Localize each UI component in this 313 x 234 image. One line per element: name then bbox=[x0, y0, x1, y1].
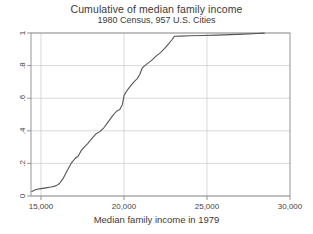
x-axis-label: Median family income in 1979 bbox=[0, 214, 313, 225]
y-tick-label: .2 bbox=[18, 160, 27, 167]
chart-figure: Cumulative of median family income 1980 … bbox=[0, 0, 313, 234]
y-tick-label: .6 bbox=[18, 94, 27, 101]
x-tick-label: 20,000 bbox=[112, 202, 137, 211]
data-series bbox=[32, 33, 264, 191]
y-tick-label: .8 bbox=[18, 62, 27, 69]
x-tick-label: 15,000 bbox=[29, 202, 54, 211]
x-tick-label: 25,000 bbox=[195, 202, 220, 211]
x-axis-ticks: 15,00020,00025,00030,000 bbox=[29, 196, 303, 211]
plot-border bbox=[31, 33, 290, 196]
plot-area: 0.2.4.6.81 15,00020,00025,00030,000 bbox=[0, 0, 313, 234]
x-tick-label: 30,000 bbox=[278, 202, 303, 211]
series-line bbox=[32, 33, 264, 191]
y-axis-ticks: 0.2.4.6.81 bbox=[18, 30, 31, 198]
y-tick-label: .4 bbox=[18, 127, 27, 134]
y-tick-label: 1 bbox=[18, 30, 27, 35]
gridlines bbox=[31, 33, 290, 196]
y-tick-label: 0 bbox=[18, 193, 27, 198]
plot-frame bbox=[31, 33, 290, 196]
